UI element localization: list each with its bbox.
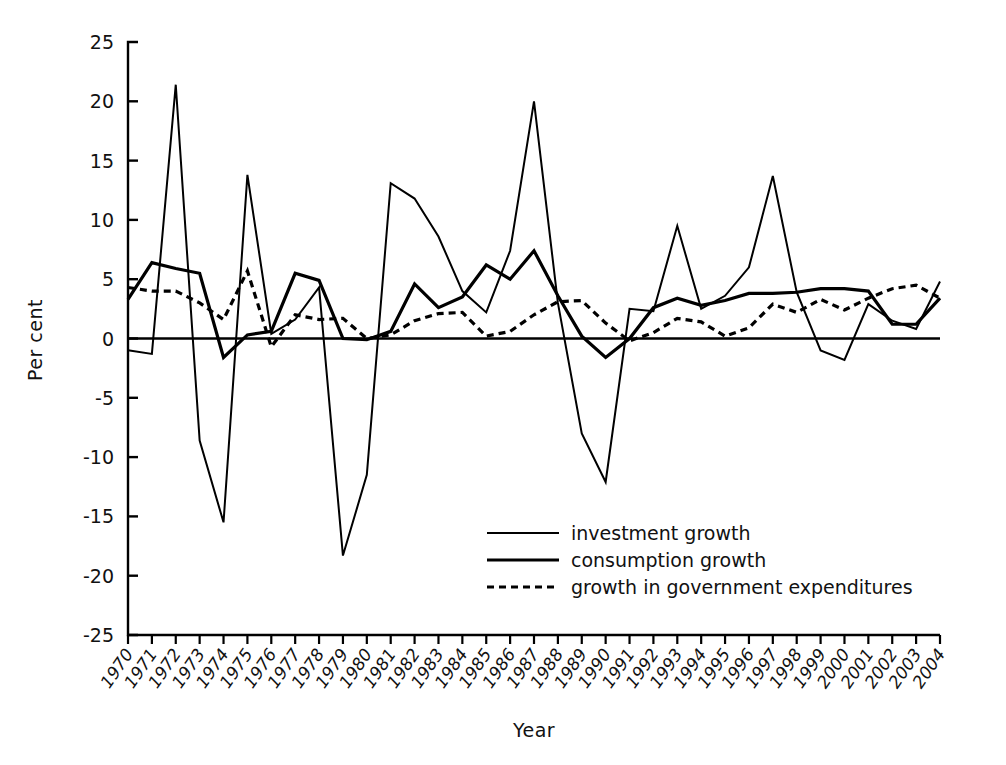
y-tick-label: -5 xyxy=(95,387,114,409)
y-tick-label: 15 xyxy=(90,150,114,172)
y-tick-label: 10 xyxy=(90,209,114,231)
legend-label: investment growth xyxy=(571,522,750,544)
y-tick-label: 5 xyxy=(102,268,114,290)
chart-figure: 2520151050-5-10-15-20-25 197019711972197… xyxy=(0,0,1006,765)
x-axis-title: Year xyxy=(512,719,555,741)
y-tick-label: -15 xyxy=(83,505,114,527)
y-tick-label: 20 xyxy=(90,90,114,112)
y-axis-title: Per cent xyxy=(24,299,46,381)
y-tick-label: -25 xyxy=(83,624,114,646)
y-tick-label: -10 xyxy=(83,446,114,468)
y-tick-label: 0 xyxy=(102,328,114,350)
y-tick-label: 25 xyxy=(90,31,114,53)
y-tick-label: -20 xyxy=(83,565,114,587)
line-chart-canvas: 2520151050-5-10-15-20-25 197019711972197… xyxy=(0,0,1006,765)
legend-label: consumption growth xyxy=(571,549,766,571)
legend-label: growth in government expenditures xyxy=(571,576,913,598)
